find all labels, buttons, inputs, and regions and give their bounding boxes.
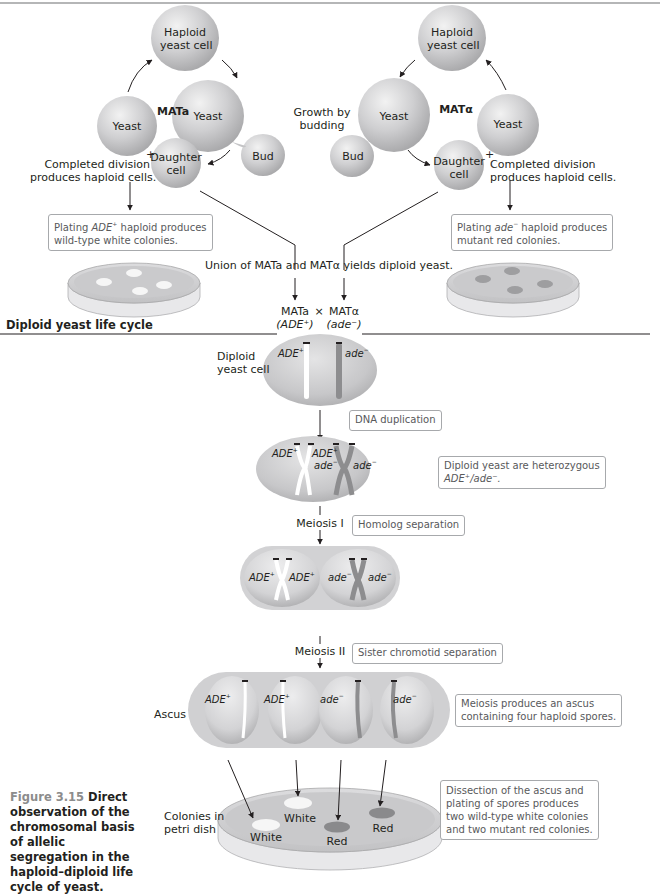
allele-label: ade− xyxy=(314,458,338,471)
yeast-right-label: Yeast xyxy=(486,118,530,131)
dissection-box: Dissection of the ascus and plating of s… xyxy=(440,780,599,840)
colony-label: Red xyxy=(366,822,400,835)
allele-label: ade− xyxy=(320,692,344,705)
sister-chromatid-box: Sister chromotid separation xyxy=(352,643,503,664)
petri-dish-right xyxy=(447,263,579,317)
allele-label: ADE+ xyxy=(249,570,275,583)
completed-division-left: Completed divisionproduces haploid cells… xyxy=(30,158,150,184)
plating-box-left: Plating ADE+ haploid produces wild-type … xyxy=(48,214,213,251)
daughter-cell-left-label: Daughtercell xyxy=(148,151,204,177)
plating-box-right: Plating ade− haploid produces mutant red… xyxy=(451,214,613,251)
yeast-left-label: Yeast xyxy=(105,120,149,133)
cross-right: MATα(ade⁻) xyxy=(326,305,362,331)
allele-label: ADE+ xyxy=(272,446,298,459)
ascus-box: Meiosis produces an ascus containing fou… xyxy=(455,694,622,727)
ascus xyxy=(188,672,450,748)
ascus-label: Ascus xyxy=(154,708,186,721)
colonies-label: Colonies inpetri dish xyxy=(164,810,224,836)
allele-label: ade− xyxy=(368,570,392,583)
allele-label: ADE+ xyxy=(205,692,231,705)
allele-label: ADE+ xyxy=(264,692,290,705)
daughter-cell-right-label: Daughtercell xyxy=(431,155,487,181)
allele-label: ade− xyxy=(353,458,377,471)
haploid-cell-left-label: Haploidyeast cell xyxy=(160,26,210,52)
meiosis2-label: Meiosis II xyxy=(291,645,349,658)
diploid-cell xyxy=(263,334,377,406)
colony-label: White xyxy=(246,831,286,844)
allele-label: ADE+ xyxy=(278,346,304,359)
colony-label: White xyxy=(280,812,320,825)
petri-dish-left xyxy=(68,263,200,317)
caption-text: Direct observation of the chromosomal ba… xyxy=(10,790,135,894)
diploid-cell-label: Diploidyeast cell xyxy=(217,350,270,376)
union-label: Union of MATa and MATα yields diploid ye… xyxy=(205,259,445,272)
allele-label: ade− xyxy=(345,346,369,359)
colony-label: Red xyxy=(320,835,354,848)
allele-label: ade− xyxy=(328,570,352,583)
bud-right-label: Bud xyxy=(338,150,368,163)
allele-label: ade− xyxy=(393,692,417,705)
haploid-cell-right-label: Haploidyeast cell xyxy=(427,26,477,52)
bud-left-label: Bud xyxy=(248,150,278,163)
petri-dish-colonies xyxy=(218,788,442,870)
section-title: Diploid yeast life cycle xyxy=(6,319,153,332)
homolog-separation-box: Homolog separation xyxy=(352,515,465,536)
cross-times: × xyxy=(313,305,325,318)
heterozygous-box: Diploid yeast are heterozygous ADE⁺/ade⁻… xyxy=(438,456,606,489)
cross-left: MATa(ADE⁺) xyxy=(276,305,314,331)
budding-yeast-left-label: Yeast xyxy=(186,110,230,123)
dna-duplication-box: DNA duplication xyxy=(349,410,442,431)
completed-division-right: Completed divisionproduces haploid cells… xyxy=(490,158,630,184)
allele-label: ADE+ xyxy=(289,570,315,583)
budding-yeast-right-label: Yeast xyxy=(372,110,416,123)
mating-type-matalpha: MATα xyxy=(436,103,476,116)
meiosis1-label: Meiosis I xyxy=(295,517,345,530)
figure-caption: Figure 3.15 Direct observation of the ch… xyxy=(10,790,145,895)
growth-by-budding-label: Growth bybudding xyxy=(292,106,352,132)
figure-number: Figure 3.15 xyxy=(10,790,84,804)
